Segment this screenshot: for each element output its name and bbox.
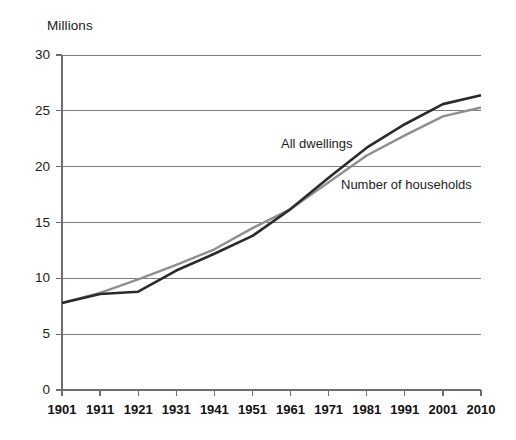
x-tick-label: 1941 <box>200 402 229 417</box>
series-label-all-dwellings: All dwellings <box>281 136 353 151</box>
y-tick-label: 0 <box>42 382 50 397</box>
x-tick-label: 1961 <box>276 402 305 417</box>
series-annotations: All dwellingsNumber of households <box>281 136 472 192</box>
x-tick-label: 2001 <box>428 402 457 417</box>
y-tick-label: 30 <box>35 47 50 62</box>
chart-plot-area: 051015202530 190119111921193119411951196… <box>0 0 516 440</box>
x-tick-label: 1951 <box>238 402 267 417</box>
y-tick-label: 10 <box>35 270 50 285</box>
y-tick-label: 15 <box>35 215 50 230</box>
y-tick-label: 25 <box>35 103 50 118</box>
x-tick-label: 1901 <box>48 402 77 417</box>
series-line-all-dwellings <box>62 95 481 303</box>
x-tick-label: 1911 <box>86 402 114 417</box>
y-tick-label: 20 <box>35 159 50 174</box>
x-tick-label: 2010 <box>467 402 496 417</box>
series-line-number-of-households <box>62 107 481 302</box>
x-tick-label: 1931 <box>162 402 191 417</box>
series-label-number-of-households: Number of households <box>341 177 472 192</box>
line-chart: Millions 051015202530 190119111921193119… <box>0 0 516 440</box>
y-tick-label: 5 <box>42 326 50 341</box>
x-tick-label: 1991 <box>390 402 419 417</box>
x-axis-ticks: 1901191119211931194119511961197119811991… <box>48 390 496 417</box>
x-tick-label: 1921 <box>124 402 153 417</box>
x-tick-label: 1981 <box>352 402 381 417</box>
y-axis-ticks: 051015202530 <box>35 47 62 397</box>
x-tick-label: 1971 <box>314 402 343 417</box>
data-series <box>62 95 481 303</box>
